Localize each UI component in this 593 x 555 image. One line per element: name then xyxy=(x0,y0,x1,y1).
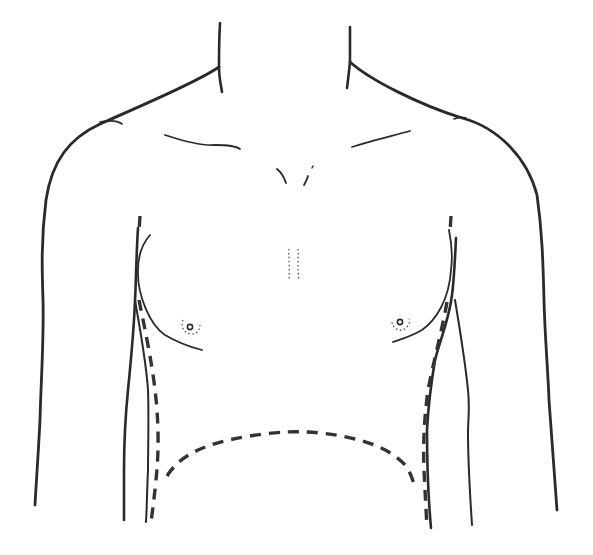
dashed-inframammary-arc xyxy=(167,432,414,484)
clavicle-lines xyxy=(165,131,410,149)
neck-outline xyxy=(219,23,350,92)
shoulder-outline xyxy=(35,62,557,510)
nipple-marks xyxy=(182,319,409,334)
torso-diagram xyxy=(0,0,593,555)
dashed-lateral-lines xyxy=(139,216,451,527)
sternum-dotted-marks xyxy=(289,249,299,281)
sternal-notch-marks xyxy=(277,166,313,185)
